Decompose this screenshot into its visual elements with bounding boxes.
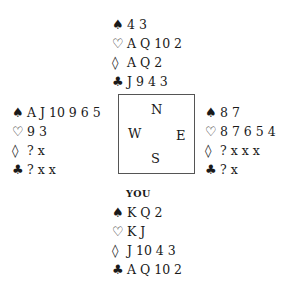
east-hand: ♠8 7 ♡8 7 6 5 4 ◊? x x x ♣? x — [205, 103, 276, 179]
diamond-icon: ◊ — [112, 241, 127, 260]
west-spades: ♠A J 10 9 6 5 — [12, 103, 101, 122]
north-clubs: ♣J 9 4 3 — [112, 72, 182, 91]
club-icon: ♣ — [12, 160, 27, 179]
heart-icon: ♡ — [112, 34, 127, 53]
south-diamonds: ◊J 10 4 3 — [112, 241, 182, 260]
south-clubs: ♣A Q 10 2 — [112, 260, 182, 279]
club-icon: ♣ — [112, 260, 127, 279]
west-clubs: ♣? x x — [12, 160, 101, 179]
west-diamonds: ◊? x — [12, 141, 101, 160]
compass-north: N — [151, 102, 162, 117]
south-hand: YOU ♠K Q 2 ♡K J ◊J 10 4 3 ♣A Q 10 2 — [112, 185, 182, 279]
west-hand: ♠A J 10 9 6 5 ♡9 3 ◊? x ♣? x x — [12, 103, 101, 179]
diamond-icon: ◊ — [12, 141, 27, 160]
spade-icon: ♠ — [112, 203, 127, 222]
diamond-icon: ◊ — [112, 53, 127, 72]
spade-icon: ♠ — [205, 103, 220, 122]
heart-icon: ♡ — [112, 222, 127, 241]
east-clubs: ♣? x — [205, 160, 276, 179]
south-hearts: ♡K J — [112, 222, 182, 241]
north-diamonds: ◊A Q 2 — [112, 53, 182, 72]
spade-icon: ♠ — [12, 103, 27, 122]
compass-box: N W E S — [118, 94, 195, 174]
north-hand: ♠4 3 ♡A Q 10 2 ◊A Q 2 ♣J 9 4 3 — [112, 15, 182, 91]
you-label: YOU — [112, 185, 182, 203]
spade-icon: ♠ — [112, 15, 127, 34]
diamond-icon: ◊ — [205, 141, 220, 160]
north-hearts: ♡A Q 10 2 — [112, 34, 182, 53]
club-icon: ♣ — [205, 160, 220, 179]
heart-icon: ♡ — [12, 122, 27, 141]
east-hearts: ♡8 7 6 5 4 — [205, 122, 276, 141]
east-spades: ♠8 7 — [205, 103, 276, 122]
heart-icon: ♡ — [205, 122, 220, 141]
compass-east: E — [176, 128, 186, 143]
north-spades: ♠4 3 — [112, 15, 182, 34]
west-hearts: ♡9 3 — [12, 122, 101, 141]
club-icon: ♣ — [112, 72, 127, 91]
compass-south: S — [151, 151, 160, 166]
compass-west: W — [128, 126, 141, 141]
east-diamonds: ◊? x x x — [205, 141, 276, 160]
south-spades: ♠K Q 2 — [112, 203, 182, 222]
